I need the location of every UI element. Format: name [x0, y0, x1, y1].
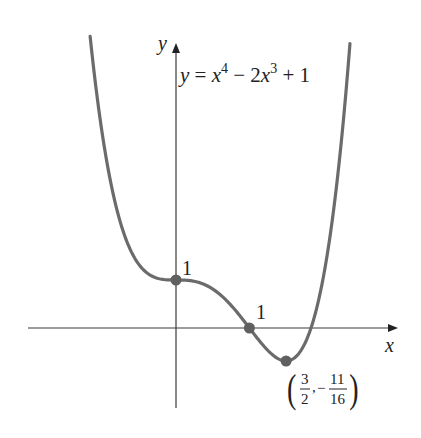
svg-text:(: (	[287, 366, 296, 411]
marked-points	[171, 275, 292, 367]
data-point-marker	[171, 275, 182, 286]
svg-text:11: 11	[330, 371, 344, 387]
data-point-marker	[281, 356, 292, 367]
data-point-marker	[244, 323, 255, 334]
svg-text:16: 16	[330, 391, 346, 407]
svg-text:): )	[349, 366, 358, 411]
y-axis-label: y	[156, 32, 167, 55]
equation-label: y = x4 − 2x3 + 1	[178, 61, 310, 87]
svg-text:3: 3	[301, 371, 309, 387]
y-intercept-label: 1	[182, 257, 192, 279]
svg-text:−: −	[317, 380, 325, 396]
x-intercept-label: 1	[256, 301, 266, 323]
y-axis-arrow-icon	[172, 43, 180, 53]
minimum-point-label: ( 3 2 , − 11 16 )	[287, 366, 359, 411]
svg-text:,: ,	[312, 379, 316, 395]
function-plot: y x y = x4 − 2x3 + 1 1 1 ( 3 2 , − 11 16…	[0, 0, 421, 438]
x-axis-arrow-icon	[388, 324, 398, 332]
svg-text:2: 2	[301, 391, 309, 407]
x-axis-label: x	[384, 334, 394, 356]
